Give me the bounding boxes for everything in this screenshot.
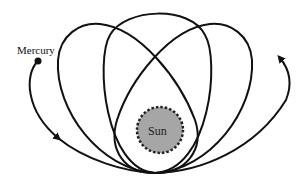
mercury-dot bbox=[35, 58, 42, 65]
mercury-label: Mercury bbox=[17, 44, 55, 56]
orbit-left bbox=[58, 24, 198, 173]
orbit-diagram: Mercury Sun bbox=[0, 0, 305, 186]
sun-label: Sun bbox=[148, 124, 167, 139]
orbit-right bbox=[115, 24, 253, 173]
precession-arrow-left bbox=[30, 62, 58, 138]
diagram-canvas bbox=[0, 0, 305, 186]
